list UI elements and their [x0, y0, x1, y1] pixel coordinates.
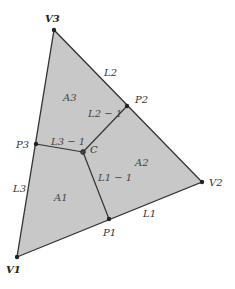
- label-p3: P3: [15, 139, 29, 150]
- label-area-a2: A2: [134, 157, 149, 168]
- label-seg-l2-1: L2 − 1: [87, 108, 122, 119]
- triangle-diagram: V1 V2 V3 P1 P2 P3 C L1 L2 L3 L1 − 1 L2 −…: [0, 0, 235, 289]
- label-v2: V2: [209, 177, 223, 188]
- triangle-fill: [17, 30, 202, 257]
- point-p1: [107, 217, 111, 221]
- label-seg-l1-1: L1 − 1: [97, 172, 132, 183]
- point-p3: [34, 142, 38, 146]
- point-c: [81, 150, 86, 155]
- label-area-a3: A3: [62, 92, 77, 103]
- label-v3: V3: [45, 13, 60, 24]
- vertex-v3: [52, 28, 56, 32]
- label-v1: V1: [6, 264, 21, 275]
- label-edge-l2: L2: [103, 67, 117, 78]
- point-p2: [125, 104, 129, 108]
- label-c: C: [90, 144, 98, 155]
- label-edge-l1: L1: [142, 208, 156, 219]
- label-area-a1: A1: [53, 192, 68, 203]
- label-p2: P2: [134, 94, 148, 105]
- vertex-v1: [15, 255, 19, 259]
- vertex-v2: [200, 180, 204, 184]
- label-seg-l3-1: L3 − 1: [50, 136, 85, 147]
- label-p1: P1: [102, 227, 116, 238]
- label-edge-l3: L3: [12, 183, 26, 194]
